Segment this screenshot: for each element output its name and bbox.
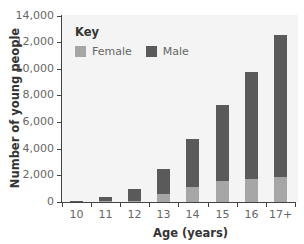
y-tick-label: 14,000 bbox=[16, 10, 55, 22]
x-tick-label: 10 bbox=[62, 208, 91, 221]
female-swatch-icon bbox=[75, 46, 86, 57]
x-tick bbox=[120, 202, 121, 207]
x-tick bbox=[237, 202, 238, 207]
x-axis-title: Age (years) bbox=[153, 226, 228, 240]
bar-segment-male bbox=[216, 105, 229, 181]
bar-segment-male bbox=[128, 189, 141, 201]
x-tick bbox=[149, 202, 150, 207]
x-tick bbox=[208, 202, 209, 207]
x-tick-label: 17+ bbox=[266, 208, 295, 221]
x-tick-label: 14 bbox=[178, 208, 207, 221]
stacked-bar-chart: 02,0004,0006,0008,00010,00012,00014,000 … bbox=[0, 0, 304, 244]
y-tick bbox=[57, 69, 62, 70]
bar-segment-female bbox=[186, 187, 199, 202]
legend: Key Female Male bbox=[75, 25, 203, 58]
bar-segment-female bbox=[274, 177, 287, 202]
legend-title: Key bbox=[75, 25, 203, 39]
bar-age-16 bbox=[245, 72, 258, 202]
bar-age-13 bbox=[157, 169, 170, 202]
bar-age-15 bbox=[216, 105, 229, 202]
y-tick-label: 4,000 bbox=[23, 143, 55, 155]
bar-segment-male bbox=[245, 72, 258, 179]
y-tick-label: 2,000 bbox=[23, 169, 55, 181]
y-tick bbox=[57, 16, 62, 17]
x-tick-label: 16 bbox=[237, 208, 266, 221]
y-tick-label: 0 bbox=[47, 196, 54, 208]
y-axis-title: Number of young people bbox=[8, 28, 22, 188]
male-swatch-icon bbox=[146, 46, 157, 57]
bar-segment-male bbox=[274, 35, 287, 176]
bar-age-12 bbox=[128, 189, 141, 202]
bar-segment-female bbox=[157, 194, 170, 202]
legend-label-male: Male bbox=[163, 45, 189, 58]
y-tick bbox=[57, 149, 62, 150]
x-tick bbox=[266, 202, 267, 207]
legend-item-female: Female bbox=[75, 45, 132, 58]
x-tick-label: 15 bbox=[208, 208, 237, 221]
y-tick bbox=[57, 175, 62, 176]
bar-segment-female bbox=[245, 179, 258, 202]
bar-age-17plus bbox=[274, 35, 287, 202]
legend-item-male: Male bbox=[146, 45, 189, 58]
bar-segment-male bbox=[99, 197, 112, 201]
bar-segment-male bbox=[157, 169, 170, 194]
x-axis bbox=[57, 202, 296, 203]
x-tick bbox=[178, 202, 179, 207]
y-tick bbox=[57, 42, 62, 43]
y-tick-label: 8,000 bbox=[23, 89, 55, 101]
x-tick bbox=[295, 202, 296, 207]
x-tick bbox=[91, 202, 92, 207]
legend-label-female: Female bbox=[92, 45, 132, 58]
bar-segment-male bbox=[186, 139, 199, 187]
y-tick bbox=[57, 95, 62, 96]
legend-entries: Female Male bbox=[75, 45, 203, 58]
y-tick-label: 6,000 bbox=[23, 116, 55, 128]
bar-segment-female bbox=[216, 181, 229, 202]
x-tick-label: 13 bbox=[149, 208, 178, 221]
x-tick bbox=[62, 202, 63, 207]
bar-age-14 bbox=[186, 139, 199, 202]
y-tick bbox=[57, 122, 62, 123]
x-tick-label: 11 bbox=[91, 208, 120, 221]
x-tick-label: 12 bbox=[120, 208, 149, 221]
